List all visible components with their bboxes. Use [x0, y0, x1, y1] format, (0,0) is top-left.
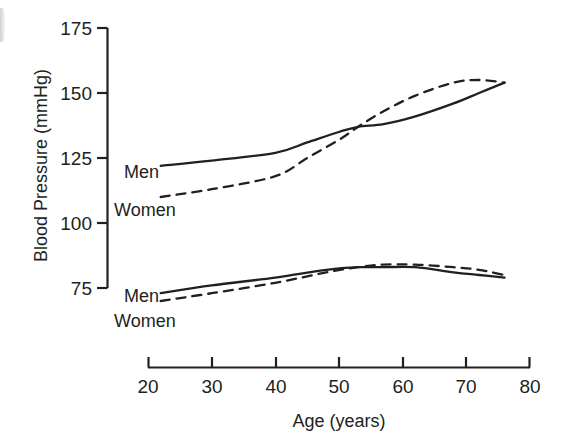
line-systolic-women: [161, 80, 505, 197]
x-tick-label-20: 20: [137, 376, 158, 397]
label-systolic-women: Women: [114, 200, 176, 220]
y-tick-label-175: 175: [60, 18, 92, 39]
label-diastolic-men: Men: [124, 286, 159, 306]
y-axis: 175 150 125 100 75 Blood Pressure (mmHg): [31, 18, 108, 299]
x-tick-label-40: 40: [265, 376, 286, 397]
blood-pressure-chart-figure: 175 150 125 100 75 Blood Pressure (mmHg)…: [0, 0, 581, 443]
line-systolic-men: [161, 83, 505, 166]
y-tick-label-75: 75: [71, 278, 92, 299]
x-axis: 20 30 40 50 60 70 80 Age (years): [137, 357, 540, 431]
x-tick-label-60: 60: [392, 376, 413, 397]
line-diastolic-men: [161, 267, 505, 293]
x-axis-title: Age (years): [292, 411, 385, 431]
x-tick-label-80: 80: [519, 376, 540, 397]
chart-plot-area: 175 150 125 100 75 Blood Pressure (mmHg)…: [0, 0, 581, 443]
y-tick-label-125: 125: [60, 148, 92, 169]
label-systolic-men: Men: [124, 162, 159, 182]
y-axis-title: Blood Pressure (mmHg): [31, 69, 51, 262]
y-tick-label-100: 100: [60, 213, 92, 234]
x-tick-label-30: 30: [201, 376, 222, 397]
series-labels: Men Women Men Women: [114, 162, 176, 331]
x-tick-label-70: 70: [455, 376, 476, 397]
y-tick-label-150: 150: [60, 83, 92, 104]
x-tick-label-50: 50: [328, 376, 349, 397]
series-group: [161, 80, 505, 301]
label-diastolic-women: Women: [114, 311, 176, 331]
